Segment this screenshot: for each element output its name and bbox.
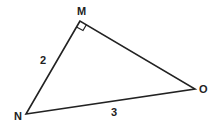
triangle-diagram: M N O 2 3 xyxy=(0,0,217,124)
vertex-label-m: M xyxy=(77,5,86,17)
vertex-label-n: N xyxy=(14,110,22,122)
triangle-mno xyxy=(26,21,195,114)
side-length-mn: 2 xyxy=(40,54,46,66)
side-length-no: 3 xyxy=(111,106,117,118)
vertex-label-o: O xyxy=(199,83,208,95)
